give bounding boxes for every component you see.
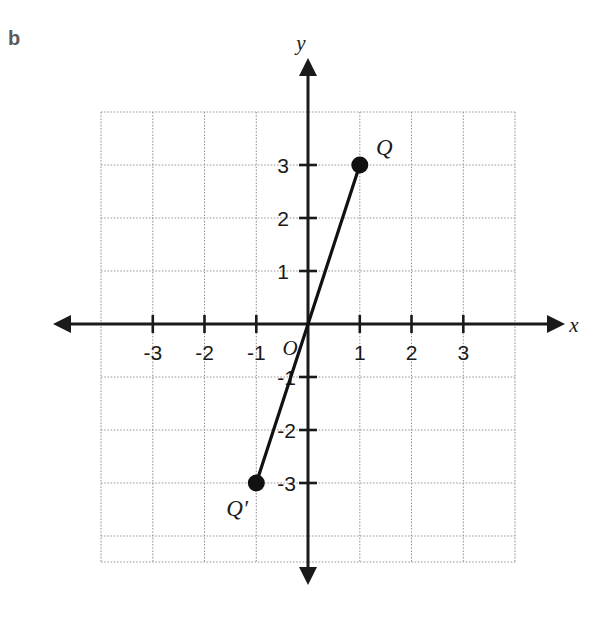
y-tick-label-neg3: -3 bbox=[277, 472, 296, 495]
y-axis-arrow-down bbox=[299, 567, 317, 585]
origin-label: O bbox=[282, 336, 297, 360]
x-axis-arrow-right bbox=[547, 315, 565, 333]
x-tick-label-2: 2 bbox=[406, 341, 418, 364]
x-tick-label-neg2: -2 bbox=[195, 341, 214, 364]
point-label-q: Q bbox=[376, 135, 393, 160]
y-tick-label-3: 3 bbox=[277, 154, 289, 177]
figure-root: b bbox=[0, 0, 606, 619]
x-tick-label-1: 1 bbox=[354, 341, 366, 364]
x-tick-label-3: 3 bbox=[457, 341, 469, 364]
point-label-q-prime: Q′ bbox=[226, 496, 249, 521]
point-q bbox=[351, 157, 368, 174]
y-tick-label-neg2: -2 bbox=[277, 419, 296, 442]
point-q-prime bbox=[248, 475, 265, 492]
y-axis-label: y bbox=[294, 31, 306, 55]
y-tick-label-2: 2 bbox=[277, 207, 289, 230]
coordinate-plane-graphic: y x O -3 -2 -1 1 2 3 3 2 1 -1 -2 -3 Q Q′ bbox=[0, 0, 606, 619]
x-tick-label-neg3: -3 bbox=[143, 341, 162, 364]
x-axis-label: x bbox=[568, 313, 579, 337]
x-axis-arrow-left bbox=[53, 315, 71, 333]
y-axis-arrow-up bbox=[299, 58, 317, 76]
x-tick-label-neg1: -1 bbox=[247, 341, 266, 364]
y-tick-label-1: 1 bbox=[277, 260, 289, 283]
